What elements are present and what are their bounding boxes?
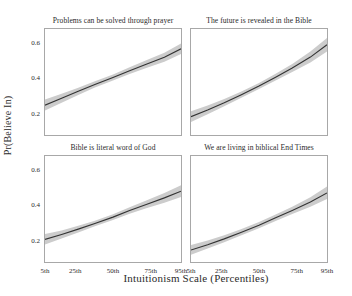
y-axis-title-text: Pr(Believe In) <box>3 95 14 155</box>
plot-area <box>44 28 182 136</box>
x-tick-label: 25th <box>207 267 235 275</box>
panel-title: The future is revealed in the Bible <box>190 16 328 25</box>
y-tick-label: 0.2 <box>19 110 40 118</box>
y-tick-label: 0.2 <box>19 237 40 245</box>
x-tick-label: 75th <box>283 267 311 275</box>
panel-prayer: Problems can be solved through prayer <box>44 16 182 136</box>
plot-area <box>190 155 328 263</box>
figure-small-multiples: Pr(Believe In) Problems can be solved th… <box>0 0 352 296</box>
y-tick-label: 0.4 <box>19 74 40 82</box>
x-tick-label: 95th <box>313 267 341 275</box>
series-canvas <box>191 29 327 135</box>
panel-title: We are living in biblical End Times <box>190 143 328 152</box>
plot-area <box>44 155 182 263</box>
x-tick-label: 25th <box>61 267 89 275</box>
x-tick-label: 75th <box>137 267 165 275</box>
plot-area <box>190 28 328 136</box>
x-tick-label: 5th <box>177 267 205 275</box>
confidence-band <box>191 38 327 122</box>
y-tick-label: 0.6 <box>19 166 40 174</box>
y-tick-label: 0.6 <box>19 39 40 47</box>
x-tick-label: 50th <box>245 267 273 275</box>
series-canvas <box>45 156 181 262</box>
panel-title: Bible is literal word of God <box>44 143 182 152</box>
panel-future-bible: The future is revealed in the Bible <box>190 16 328 136</box>
confidence-band <box>191 187 327 255</box>
series-canvas <box>45 29 181 135</box>
x-tick-label: 50th <box>99 267 127 275</box>
y-axis-title: Pr(Believe In) <box>0 0 16 250</box>
panel-end-times: We are living in biblical End Times <box>190 143 328 263</box>
confidence-band <box>45 185 181 244</box>
x-tick-label: 5th <box>31 267 59 275</box>
panel-literal-word: Bible is literal word of God <box>44 143 182 263</box>
y-tick-label: 0.4 <box>19 201 40 209</box>
panel-title: Problems can be solved through prayer <box>44 16 182 25</box>
series-canvas <box>191 156 327 262</box>
